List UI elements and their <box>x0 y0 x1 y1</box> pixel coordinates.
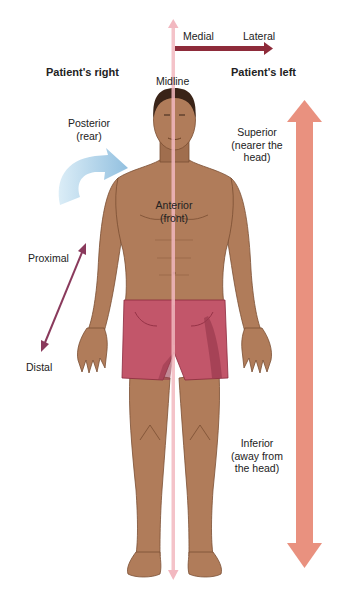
anterior-label-line2: (front) <box>150 212 198 225</box>
patients-left-label: Patient's left <box>231 66 296 79</box>
lateral-label: Lateral <box>243 30 275 43</box>
superior-label-line1: Superior <box>226 126 288 139</box>
superior-label-line3: head) <box>226 151 288 164</box>
distal-label: Distal <box>26 361 52 374</box>
inferior-label-line3: the head) <box>226 462 288 475</box>
midline-label: Midline <box>156 75 189 88</box>
medial-label: Medial <box>183 30 214 43</box>
superior-label: Superior (nearer the head) <box>226 126 288 164</box>
inferior-label-line1: Inferior <box>226 437 288 450</box>
posterior-label-line2: (rear) <box>64 130 114 143</box>
posterior-label-line1: Posterior <box>64 117 114 130</box>
anterior-label-line1: Anterior <box>150 199 198 212</box>
superior-label-line2: (nearer the <box>226 139 288 152</box>
posterior-label: Posterior (rear) <box>64 117 114 142</box>
proximal-label: Proximal <box>28 252 69 265</box>
anterior-label: Anterior (front) <box>150 199 198 224</box>
superior-inferior-arrow <box>287 100 322 568</box>
inferior-label: Inferior (away from the head) <box>226 437 288 475</box>
inferior-label-line2: (away from <box>226 450 288 463</box>
anatomy-diagram <box>0 0 343 592</box>
medial-lateral-arrow <box>175 42 273 55</box>
patients-right-label: Patient's right <box>46 66 119 79</box>
